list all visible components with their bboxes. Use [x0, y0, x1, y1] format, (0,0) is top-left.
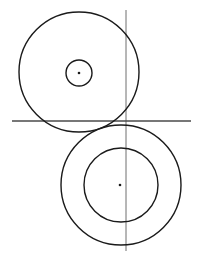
lower-center-point	[119, 184, 122, 187]
upper-center-point	[78, 72, 81, 75]
diagram-canvas	[0, 0, 198, 259]
